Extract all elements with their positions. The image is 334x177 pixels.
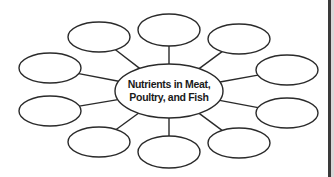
- connector-line-right-bottom: [220, 100, 258, 107]
- blank-node-right-bottom: [256, 98, 318, 128]
- center-topic-line-1: Nutrients in Meat,: [128, 78, 211, 91]
- center-topic-label: Nutrients in Meat, Poultry, and Fish: [115, 64, 223, 118]
- blank-node-bottom-right: [208, 128, 270, 158]
- connector-line-right-top: [220, 75, 258, 82]
- blank-node-bottom-center: [138, 136, 200, 168]
- blank-node-left-bottom: [19, 96, 81, 126]
- blank-node-top-center: [138, 14, 200, 46]
- connector-line-left-bottom: [79, 100, 118, 106]
- blank-node-left-top: [19, 53, 81, 83]
- blank-node-top-left: [68, 22, 130, 52]
- blank-node-bottom-left: [68, 127, 130, 157]
- concept-web-diagram: Nutrients in Meat, Poultry, and Fish: [0, 0, 334, 177]
- blank-node-top-right: [208, 24, 270, 54]
- center-topic-line-2: Poultry, and Fish: [129, 91, 208, 104]
- blank-node-right-top: [256, 55, 318, 85]
- connector-line-left-top: [79, 74, 119, 82]
